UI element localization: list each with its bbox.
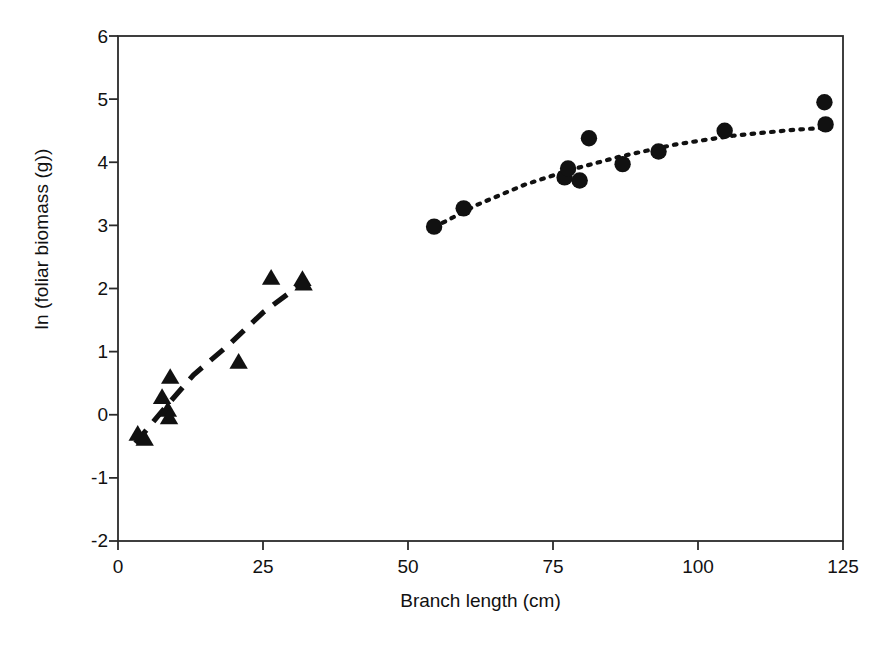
fit-lines: [135, 128, 828, 444]
plot-canvas: [0, 0, 894, 649]
chart-figure: ln (foliar biomass (g)) Branch length (c…: [0, 0, 894, 649]
axis-ticks: [109, 36, 843, 550]
axis-frame: [118, 36, 843, 541]
data-points: [129, 94, 834, 446]
